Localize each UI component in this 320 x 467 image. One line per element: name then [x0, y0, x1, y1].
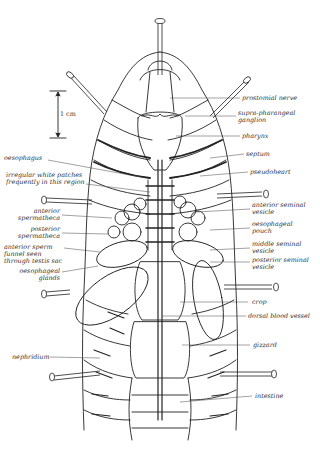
label-posterior-seminal-vesicle: posterior seminal vesicle: [252, 257, 309, 271]
label-anterior-seminal-vesicle: anterior seminal vesicle: [252, 202, 305, 216]
label-pharynx: pharynx: [242, 133, 268, 140]
label-gizzard: gizzard: [253, 342, 277, 349]
earthworm-dissection-diagram: prostomial nerve supra-pharangeal gangli…: [0, 0, 320, 467]
label-dorsal-blood-vessel: dorsal blood vessel: [248, 313, 310, 320]
label-anterior-sperm-funnel: anterior sperm funnel seen through testi…: [4, 244, 64, 265]
label-intestine: intestine: [255, 393, 283, 400]
label-irregular-white-patches: irregular white patches frequently in th…: [6, 172, 90, 186]
label-oesophagus: oesophagus: [4, 155, 48, 162]
label-oesophageal-pouch: oesophageal pouch: [252, 221, 293, 235]
label-anterior-spermatheca: anterior spermatheca: [10, 208, 60, 222]
label-nephridium: nephridium: [12, 354, 48, 361]
scale-bar-label: 1 cm: [60, 111, 76, 118]
label-supra-pharangeal-ganglion: supra-pharangeal ganglion: [238, 110, 295, 124]
label-pseudoheart: pseudoheart: [250, 169, 291, 176]
label-prostomial-nerve: prostomial nerve: [242, 95, 297, 102]
label-septum: septum: [246, 151, 270, 158]
label-crop: crop: [252, 299, 267, 306]
label-posterior-spermatheca: posterior spermatheca: [10, 226, 60, 240]
label-oesophageal-glands: oesophageal glands: [10, 268, 60, 282]
label-middle-seminal-vesicle: middle seminal vesicle: [252, 241, 301, 255]
